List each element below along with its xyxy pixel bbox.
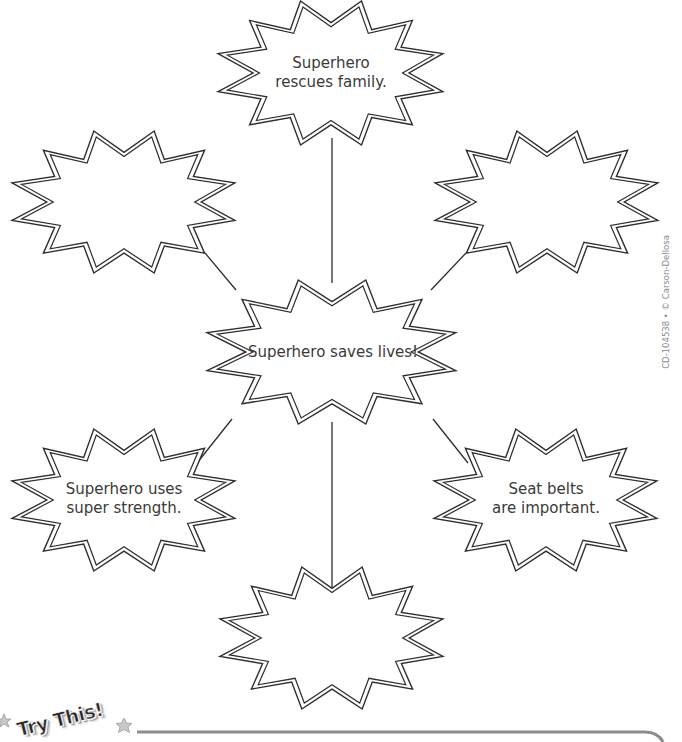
lower-left-bubble-label: Superhero uses super strength. bbox=[66, 480, 183, 518]
starburst-upper-right bbox=[435, 131, 658, 273]
center-bubble-label: Superhero saves lives! bbox=[248, 343, 418, 362]
connector-line-lower-left bbox=[197, 419, 232, 463]
starburst-upper-left bbox=[12, 131, 235, 273]
lower-right-bubble-label: Seat belts are important. bbox=[492, 480, 600, 518]
sparkle-star-icon bbox=[0, 714, 11, 727]
top-bubble-label: Superhero rescues family. bbox=[275, 54, 386, 92]
web-diagram bbox=[0, 0, 682, 742]
sparkle-star-icon bbox=[116, 718, 132, 733]
connector-line-upper-left bbox=[205, 253, 236, 290]
connector-line-upper-right bbox=[431, 253, 466, 290]
copyright-notice: CD-104538 • © Carson-Dellosa bbox=[661, 235, 671, 369]
footer-rule-line bbox=[137, 732, 663, 742]
connector-line-lower-right bbox=[433, 419, 468, 463]
starburst-bottom bbox=[220, 567, 443, 709]
